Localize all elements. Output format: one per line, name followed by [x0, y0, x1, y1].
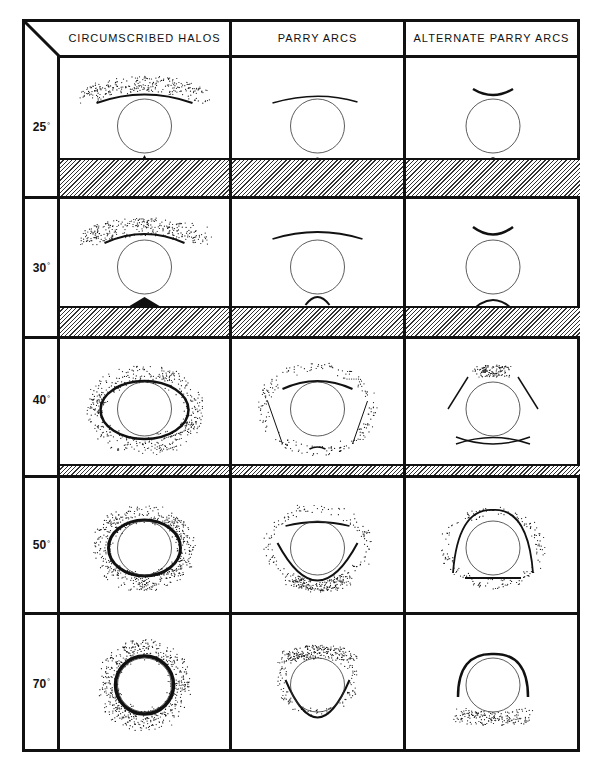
cell-circumscribed-50: [60, 478, 229, 612]
sun-circle: [118, 99, 172, 153]
horizon-hatch: [60, 158, 229, 196]
row-label-50: 50°: [25, 478, 58, 612]
cell-parry-40: [232, 339, 403, 475]
sun-circle: [291, 521, 345, 575]
halo-sketch: [60, 339, 229, 475]
row-label-30: 30°: [25, 199, 58, 336]
cell-parry-30: [232, 199, 403, 336]
sun-circle: [291, 382, 345, 436]
cell-parry-50: [232, 478, 403, 612]
halo-sketch: [60, 615, 229, 752]
cell-circumscribed-30: [60, 199, 229, 336]
horizon-hatch: [60, 306, 229, 336]
cell-alt_parry-50: [406, 478, 580, 612]
header-alternate-parry-arcs: ALTERNATE PARRY ARCS: [406, 19, 577, 56]
sun-circle: [466, 99, 520, 153]
sun-circle: [291, 240, 345, 294]
cell-alt_parry-70: [406, 615, 580, 752]
cell-parry-70: [232, 615, 403, 752]
row-label-70: 70°: [25, 615, 58, 752]
header-circumscribed-halos: CIRCUMSCRIBED HALOS: [60, 19, 229, 56]
cell-alt_parry-25: [406, 58, 580, 196]
cell-circumscribed-70: [60, 615, 229, 752]
cell-circumscribed-25: [60, 58, 229, 196]
sun-circle: [118, 521, 172, 575]
horizon-hatch: [232, 306, 403, 336]
sun-circle: [291, 99, 345, 153]
sun-circle: [466, 240, 520, 294]
horizon-hatch: [406, 464, 580, 475]
cell-circumscribed-40: [60, 339, 229, 475]
sun-circle: [466, 658, 520, 712]
halo-sketch: [60, 478, 229, 612]
horizon-hatch: [232, 158, 403, 196]
sun-circle: [466, 521, 520, 575]
horizon-hatch: [406, 306, 580, 336]
sun-circle: [291, 658, 345, 712]
cell-alt_parry-30: [406, 199, 580, 336]
horizon-hatch: [60, 464, 229, 475]
sun-circle: [118, 382, 172, 436]
sun-circle: [466, 382, 520, 436]
header-parry-arcs: PARRY ARCS: [232, 19, 403, 56]
cell-alt_parry-40: [406, 339, 580, 475]
row-label-25: 25°: [25, 58, 58, 196]
halo-sketch: [232, 478, 403, 612]
horizon-hatch: [406, 158, 580, 196]
sun-circle: [118, 240, 172, 294]
halo-sketch: [406, 339, 580, 475]
halo-sketch: [406, 615, 580, 752]
halo-sketch: [232, 615, 403, 752]
horizon-hatch: [232, 464, 403, 475]
corner-diagonal: [22, 19, 62, 59]
halo-sketch: [232, 339, 403, 475]
halo-sketch: [406, 478, 580, 612]
sun-circle: [118, 658, 172, 712]
row-label-40: 40°: [25, 339, 58, 461]
cell-parry-25: [232, 58, 403, 196]
